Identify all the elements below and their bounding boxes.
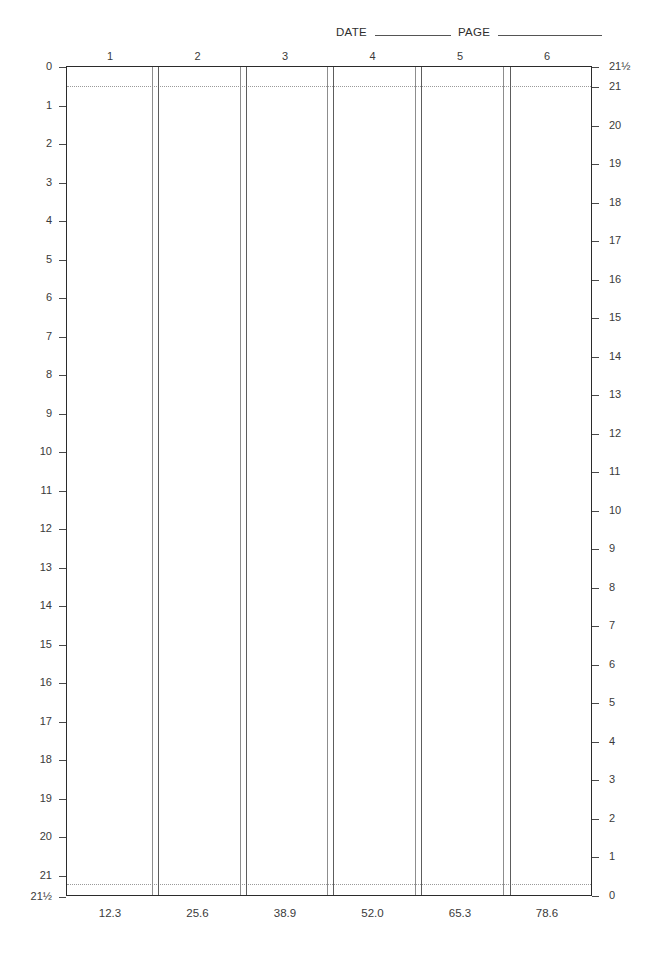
right-axis-label-6: 6 [609, 659, 615, 670]
left-tick-12 [59, 529, 66, 530]
left-tick-3 [59, 183, 66, 184]
top-axis-label-1: 1 [80, 51, 140, 62]
right-axis-label-10: 10 [609, 505, 621, 516]
column-rule-4-1 [415, 67, 416, 895]
left-tick-14 [59, 606, 66, 607]
left-axis-label-21½: 21½ [12, 891, 52, 902]
page-input-rule[interactable] [498, 35, 602, 36]
column-rule-2-1 [240, 67, 241, 895]
right-tick-12 [592, 434, 599, 435]
right-axis-label-13: 13 [609, 389, 621, 400]
date-label: DATE [336, 26, 367, 38]
right-tick-4 [592, 742, 599, 743]
right-axis-label-15: 15 [609, 312, 621, 323]
top-axis-label-5: 5 [430, 51, 490, 62]
left-axis-label-2: 2 [12, 138, 52, 149]
right-axis-label-11: 11 [609, 466, 620, 477]
left-tick-2 [59, 144, 66, 145]
left-axis-label-6: 6 [12, 292, 52, 303]
right-tick-1 [592, 857, 599, 858]
right-tick-2 [592, 819, 599, 820]
left-tick-18 [59, 760, 66, 761]
left-axis-label-21: 21 [12, 870, 52, 881]
right-tick-11 [592, 472, 599, 473]
right-tick-16 [592, 280, 599, 281]
left-axis-label-16: 16 [12, 677, 52, 688]
column-rule-3-2 [333, 67, 334, 895]
right-tick-15 [592, 318, 599, 319]
left-tick-9 [59, 414, 66, 415]
left-axis-label-8: 8 [12, 369, 52, 380]
left-axis-label-19: 19 [12, 793, 52, 804]
bottom-axis-label-12.3: 12.3 [70, 908, 150, 919]
left-axis-label-15: 15 [12, 639, 52, 650]
bottom-axis-label-52.0: 52.0 [333, 908, 413, 919]
left-axis-label-5: 5 [12, 254, 52, 265]
bottom-axis-label-65.3: 65.3 [420, 908, 500, 919]
right-axis-label-8: 8 [609, 582, 615, 593]
left-axis-label-0: 0 [12, 61, 52, 72]
right-tick-0 [592, 896, 599, 897]
date-input-rule[interactable] [375, 35, 451, 36]
date-field-group: DATE [336, 26, 451, 38]
right-axis-label-21½: 21½ [609, 61, 630, 72]
right-axis-label-1: 1 [609, 851, 615, 862]
right-axis-label-16: 16 [609, 274, 621, 285]
left-axis-label-14: 14 [12, 600, 52, 611]
right-tick-9 [592, 549, 599, 550]
dotted-guide-top [67, 86, 591, 87]
column-rule-3-1 [327, 67, 328, 895]
left-axis-label-13: 13 [12, 562, 52, 573]
left-tick-19 [59, 799, 66, 800]
top-axis-label-3: 3 [255, 51, 315, 62]
left-axis-label-12: 12 [12, 523, 52, 534]
column-rule-2-2 [246, 67, 247, 895]
left-axis-label-9: 9 [12, 408, 52, 419]
right-axis-label-14: 14 [609, 351, 621, 362]
left-tick-20 [59, 837, 66, 838]
left-tick-21½ [59, 897, 66, 898]
left-tick-10 [59, 452, 66, 453]
right-tick-21 [592, 87, 599, 88]
page-label: PAGE [458, 26, 490, 38]
left-tick-6 [59, 298, 66, 299]
left-tick-8 [59, 375, 66, 376]
left-axis-label-11: 11 [12, 485, 52, 496]
right-axis-label-18: 18 [609, 197, 621, 208]
right-axis-label-3: 3 [609, 774, 615, 785]
right-tick-6 [592, 665, 599, 666]
column-rule-1-2 [158, 67, 159, 895]
top-axis-label-2: 2 [168, 51, 228, 62]
left-axis-label-4: 4 [12, 215, 52, 226]
grid-frame [66, 66, 592, 896]
left-axis-label-20: 20 [12, 831, 52, 842]
right-tick-7 [592, 626, 599, 627]
right-axis-label-20: 20 [609, 120, 621, 131]
right-tick-13 [592, 395, 599, 396]
left-tick-1 [59, 106, 66, 107]
left-tick-0 [59, 67, 66, 68]
right-axis-label-19: 19 [609, 158, 621, 169]
right-tick-3 [592, 780, 599, 781]
top-axis-label-6: 6 [517, 51, 577, 62]
left-tick-17 [59, 722, 66, 723]
left-axis-label-10: 10 [12, 446, 52, 457]
right-tick-5 [592, 703, 599, 704]
right-tick-19 [592, 164, 599, 165]
top-axis-label-4: 4 [343, 51, 403, 62]
right-axis-label-0: 0 [609, 890, 615, 901]
right-tick-17 [592, 241, 599, 242]
left-tick-5 [59, 260, 66, 261]
bottom-axis-label-25.6: 25.6 [158, 908, 238, 919]
bottom-axis-label-38.9: 38.9 [245, 908, 325, 919]
right-tick-18 [592, 203, 599, 204]
left-axis-label-3: 3 [12, 177, 52, 188]
right-axis-label-21: 21 [609, 81, 621, 92]
right-axis-label-17: 17 [609, 235, 621, 246]
right-tick-20 [592, 126, 599, 127]
right-tick-8 [592, 588, 599, 589]
bottom-axis-label-78.6: 78.6 [507, 908, 587, 919]
column-rule-5-2 [510, 67, 511, 895]
left-tick-13 [59, 568, 66, 569]
column-rule-4-2 [421, 67, 422, 895]
